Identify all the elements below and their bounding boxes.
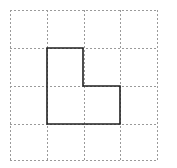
grid-diagram <box>0 0 177 168</box>
l-shape-outline <box>47 48 120 124</box>
